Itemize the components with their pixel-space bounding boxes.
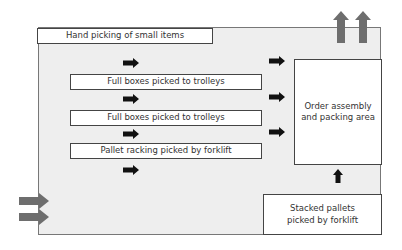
outbound-arrow-icon: [355, 11, 371, 43]
zone-stacked-pallets-label: Stacked pallets picked by forklift: [282, 203, 363, 225]
zone-hand-picking-label: Hand picking of small items: [66, 30, 184, 41]
inbound-arrow-icon: [19, 209, 49, 225]
zone-hand-picking: Hand picking of small items: [37, 28, 213, 44]
flow-arrow-right-icon: [123, 129, 139, 139]
zone-order-assembly: Order assembly and packing area: [294, 59, 382, 165]
zone-pallet-racking: Pallet racking picked by forklift: [70, 143, 262, 159]
flow-arrow-right-icon: [123, 94, 139, 104]
flow-arrow-up-icon: [333, 169, 343, 183]
flow-arrow-right-icon: [123, 58, 139, 68]
zone-order-assembly-label: Order assembly and packing area: [301, 101, 375, 123]
zone-stacked-pallets: Stacked pallets picked by forklift: [263, 194, 382, 235]
zone-full-boxes-2-label: Full boxes picked to trolleys: [107, 112, 225, 123]
zone-full-boxes-1: Full boxes picked to trolleys: [70, 74, 262, 90]
zone-full-boxes-1-label: Full boxes picked to trolleys: [107, 76, 225, 87]
inbound-arrow-icon: [19, 193, 49, 209]
flow-arrow-right-icon: [123, 165, 139, 175]
zone-pallet-racking-label: Pallet racking picked by forklift: [100, 145, 231, 156]
zone-full-boxes-2: Full boxes picked to trolleys: [70, 110, 262, 126]
flow-arrow-right-icon: [269, 92, 285, 102]
flow-arrow-right-icon: [269, 56, 285, 66]
flow-arrow-right-icon: [269, 127, 285, 137]
outbound-arrow-icon: [333, 11, 349, 43]
